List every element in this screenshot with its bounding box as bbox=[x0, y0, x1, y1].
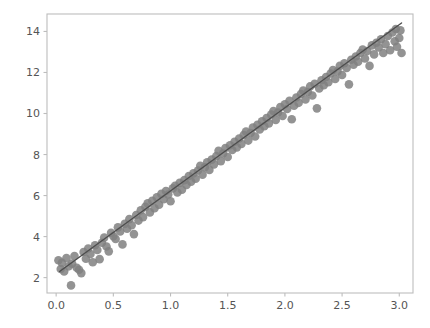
scatter-point bbox=[365, 62, 374, 71]
y-tick-label: 4 bbox=[33, 231, 40, 244]
scatter-point bbox=[361, 54, 370, 63]
y-tick-label: 14 bbox=[26, 25, 40, 38]
scatter-point bbox=[395, 34, 404, 43]
x-tick-label: 1.0 bbox=[162, 299, 180, 312]
x-tick-label: 0.5 bbox=[105, 299, 123, 312]
y-tick-label: 10 bbox=[26, 107, 40, 120]
x-tick-label: 1.5 bbox=[219, 299, 237, 312]
scatter-point bbox=[308, 91, 317, 100]
scatter-point bbox=[287, 115, 296, 124]
scatter-point bbox=[111, 235, 120, 244]
scatter-point bbox=[77, 269, 86, 278]
y-tick-label: 2 bbox=[33, 272, 40, 285]
chart-figure: 0.00.51.01.52.02.53.0 2468101214 bbox=[0, 0, 430, 328]
x-tick-label: 0.0 bbox=[47, 299, 65, 312]
scatter-point bbox=[95, 255, 104, 264]
y-tick-label: 6 bbox=[33, 190, 40, 203]
scatter-point bbox=[130, 230, 139, 239]
scatter-point bbox=[397, 49, 406, 58]
scatter-point bbox=[104, 247, 113, 256]
x-tick-label: 2.0 bbox=[276, 299, 294, 312]
x-tick-label: 2.5 bbox=[333, 299, 351, 312]
scatter-point bbox=[67, 281, 76, 290]
scatter-point bbox=[166, 197, 175, 206]
y-tick-label: 12 bbox=[26, 66, 40, 79]
scatter-plot: 0.00.51.01.52.02.53.0 2468101214 bbox=[0, 0, 430, 328]
x-tick-label: 3.0 bbox=[391, 299, 409, 312]
scatter-point bbox=[118, 240, 127, 249]
scatter-point bbox=[313, 104, 322, 113]
y-tick-label: 8 bbox=[33, 149, 40, 162]
scatter-point bbox=[396, 26, 405, 35]
scatter-point bbox=[345, 80, 354, 89]
